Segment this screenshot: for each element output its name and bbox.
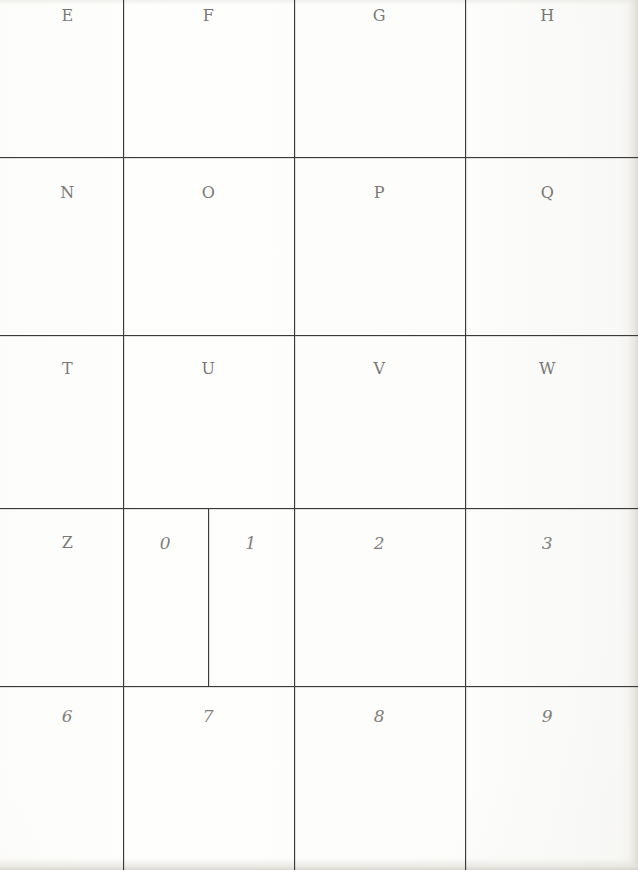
- grid-cell-glyph-r2c3: W: [465, 361, 630, 377]
- grid-cell-glyph-r3c1: 0: [123, 535, 208, 552]
- grid-cell-glyph-r0c1: F: [123, 8, 294, 24]
- grid-cell-glyph-r2c0: T: [12, 361, 123, 377]
- grid-cell-glyph-r2c2: V: [294, 361, 465, 377]
- grid-cell-glyph-r0c2: G: [294, 8, 465, 24]
- grid-cell-glyph-r1c1: O: [123, 185, 294, 201]
- horizontal-rule-2: [0, 508, 638, 509]
- handwriting-grid-sheet: EFGHNOPQTUVWZ01236789: [0, 0, 638, 870]
- paper-edge-top: [0, 0, 638, 5]
- grid-cell-glyph-r3c2: 1: [208, 535, 294, 552]
- grid-cell-glyph-r3c3: 2: [294, 535, 465, 552]
- horizontal-rule-3: [0, 686, 638, 687]
- grid-cell-glyph-r2c1: U: [123, 361, 294, 377]
- grid-cell-glyph-r3c4: 3: [465, 535, 630, 552]
- grid-cell-glyph-r4c2: 8: [294, 708, 465, 725]
- vertical-rule-0: [123, 0, 124, 870]
- grid-cell-glyph-r4c1: 7: [123, 708, 294, 725]
- grid-cell-glyph-r0c3: H: [465, 8, 630, 24]
- horizontal-rule-1: [0, 335, 638, 336]
- vertical-rule-1: [294, 0, 295, 870]
- grid-cell-glyph-r1c3: Q: [465, 185, 630, 201]
- paper-edge-right: [628, 0, 638, 870]
- grid-cell-glyph-r1c0: N: [12, 185, 123, 201]
- horizontal-rule-0: [0, 157, 638, 158]
- grid-cell-glyph-r4c0: 6: [12, 708, 123, 725]
- grid-cell-glyph-r3c0: Z: [12, 535, 123, 551]
- grid-cell-glyph-r0c0: E: [12, 8, 123, 24]
- paper-edge-bottom: [0, 858, 638, 870]
- paper-texture-overlay: [0, 0, 638, 870]
- grid-cell-glyph-r1c2: P: [294, 185, 465, 201]
- vertical-rule-2: [465, 0, 466, 870]
- grid-cell-glyph-r4c3: 9: [465, 708, 630, 725]
